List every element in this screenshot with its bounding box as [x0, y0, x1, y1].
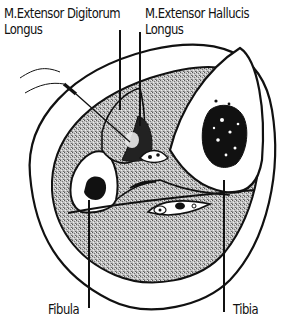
leg-cross-section — [0, 0, 286, 327]
label-ehl-line2: Longus — [145, 21, 249, 37]
label-ehl-line1: M.Extensor Hallucis — [145, 5, 249, 21]
diagram-canvas: M.Extensor Digitorum Longus M.Extensor H… — [0, 0, 286, 327]
label-edl-line2: Longus — [4, 21, 120, 37]
label-tibia: Tibia — [233, 301, 258, 317]
label-fibula: Fibula — [48, 301, 79, 317]
label-extensor-hallucis-longus: M.Extensor Hallucis Longus — [145, 5, 249, 37]
label-extensor-digitorum-longus: M.Extensor Digitorum Longus — [4, 5, 120, 37]
label-edl-line1: M.Extensor Digitorum — [4, 5, 120, 21]
tibia-marrow — [202, 105, 247, 167]
